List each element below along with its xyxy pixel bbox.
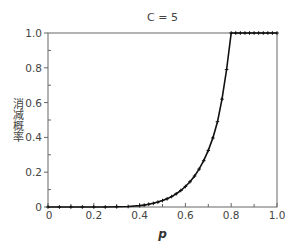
y-tick-label: 0.8	[25, 62, 42, 74]
x-tick-label: 0	[46, 209, 53, 221]
x-tick-label: 0.6	[177, 209, 194, 221]
plot-frame	[48, 33, 277, 207]
chart-title: C = 5	[48, 11, 277, 24]
y-axis-label: 消减概率	[10, 98, 24, 142]
x-axis-label: p	[48, 227, 277, 241]
y-tick-label: 0.4	[25, 131, 42, 143]
x-tick-label: 0.8	[223, 209, 240, 221]
y-tick-label: 1.0	[25, 27, 42, 39]
x-tick-label: 1.0	[269, 209, 286, 221]
y-tick-label: 0.2	[25, 166, 42, 178]
line-chart: 00.20.40.60.81.000.20.40.60.81.0	[0, 0, 299, 249]
y-tick-label: 0.6	[25, 97, 42, 109]
x-tick-label: 0.4	[131, 209, 148, 221]
y-tick-label: 0	[35, 201, 42, 213]
data-line	[48, 33, 277, 207]
x-tick-label: 0.2	[85, 209, 102, 221]
